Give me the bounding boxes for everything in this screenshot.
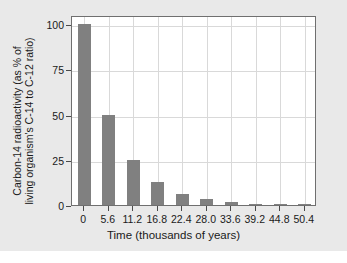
- gridline-vertical: [182, 17, 183, 205]
- y-axis-title-line-1: Carbon-14 radioactivity (as % of: [11, 46, 23, 195]
- gridline-vertical: [207, 17, 208, 205]
- x-axis-tick: [255, 206, 256, 211]
- x-axis-tick-label: 39.2: [245, 213, 265, 225]
- bar: [102, 115, 115, 205]
- bar: [298, 204, 311, 205]
- y-axis-tick: [66, 70, 71, 71]
- x-axis-tick: [132, 206, 133, 211]
- x-axis-tick: [279, 206, 280, 211]
- bar: [274, 204, 287, 205]
- y-axis-title-line-2: living organism's C-14 to C-12 ratio): [23, 37, 35, 204]
- plot-area: [71, 16, 316, 206]
- bar: [200, 199, 213, 205]
- x-axis-tick-label: 11.2: [122, 213, 142, 225]
- y-axis-tick-label: 0: [58, 200, 64, 212]
- gridline-vertical: [280, 17, 281, 205]
- bar: [249, 204, 262, 205]
- x-axis-title: Time (thousands of years): [0, 229, 347, 241]
- x-axis-tick-label: 33.6: [220, 213, 240, 225]
- y-axis-tick-label: 50: [52, 110, 64, 122]
- chart-figure: Carbon-14 radioactivity (as % of living …: [0, 0, 347, 263]
- bar: [151, 182, 164, 205]
- gridline-vertical: [158, 17, 159, 205]
- gridline-vertical: [305, 17, 306, 205]
- x-axis-tick: [181, 206, 182, 211]
- x-axis-tick: [108, 206, 109, 211]
- y-axis-title: Carbon-14 radioactivity (as % of living …: [6, 21, 40, 221]
- bar: [127, 160, 140, 205]
- x-axis-tick-label: 50.4: [294, 213, 314, 225]
- x-axis-tick-label: 0: [80, 213, 86, 225]
- x-axis-tick-label: 44.8: [269, 213, 289, 225]
- y-axis-tick-label: 25: [52, 155, 64, 167]
- y-axis-tick-label: 100: [46, 19, 64, 31]
- gridline-vertical: [231, 17, 232, 205]
- gridline-vertical: [256, 17, 257, 205]
- bar: [78, 24, 91, 205]
- y-axis-tick: [66, 206, 71, 207]
- y-axis-tick: [66, 116, 71, 117]
- x-axis-tick-label: 5.6: [100, 213, 115, 225]
- x-axis-tick: [304, 206, 305, 211]
- bar: [176, 194, 189, 205]
- x-axis-tick: [230, 206, 231, 211]
- x-axis-tick: [83, 206, 84, 211]
- x-axis-tick: [206, 206, 207, 211]
- y-axis-tick: [66, 161, 71, 162]
- x-axis-tick-label: 22.4: [171, 213, 191, 225]
- y-axis-tick-label: 75: [52, 64, 64, 76]
- bar: [225, 202, 238, 205]
- x-axis-tick-label: 16.8: [147, 213, 167, 225]
- y-axis-tick: [66, 25, 71, 26]
- x-axis-tick-label: 28.0: [196, 213, 216, 225]
- x-axis-tick: [157, 206, 158, 211]
